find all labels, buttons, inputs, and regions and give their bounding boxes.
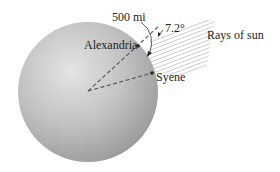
alexandria-label: Alexandria [84,39,137,51]
angle-label: 7.2° [165,22,185,34]
syene-dot [150,71,154,75]
eratosthenes-diagram [0,0,280,172]
rays-label: Rays of sun [207,29,264,41]
distance-label: 500 mi [112,11,146,23]
syene-label: Syene [156,71,185,83]
